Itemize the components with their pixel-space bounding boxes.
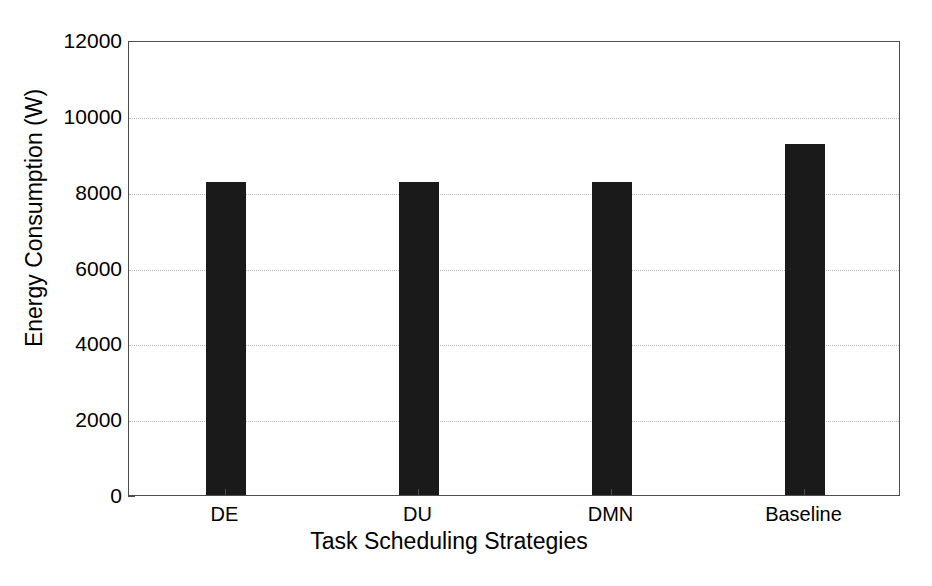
y-axis-tick-label-text: 0 (4, 485, 122, 506)
bar (399, 182, 439, 495)
x-axis-tick-mark (611, 489, 612, 496)
gridline (129, 118, 899, 119)
y-axis-tick-label: 8000 (0, 182, 122, 203)
x-axis-title: Task Scheduling Strategies (0, 528, 932, 554)
y-axis-title: Energy Consumption (W) (21, 0, 47, 448)
y-axis-tick-label: 10000 (0, 106, 122, 127)
bar (592, 182, 632, 495)
bar (785, 144, 825, 495)
x-axis-tick-label: DMN (588, 503, 634, 526)
y-axis-tick-label: 2000 (0, 409, 122, 430)
x-axis-tick-mark (804, 489, 805, 496)
y-axis-tick-label: 0 (0, 485, 122, 506)
x-axis-tick-label: DU (403, 503, 432, 526)
y-axis-tick-mark (128, 496, 135, 497)
x-axis-tick-mark (225, 489, 226, 496)
x-axis-tick-label: Baseline (765, 503, 842, 526)
x-axis-tick-label: DE (211, 503, 239, 526)
y-axis-tick-label: 4000 (0, 333, 122, 354)
x-axis-title-text: Task Scheduling Strategies (310, 528, 587, 554)
bar-chart-figure: 020004000600080001000012000 Energy Consu… (0, 0, 932, 586)
y-axis-tick-label: 12000 (0, 30, 122, 51)
y-axis-tick-label: 6000 (0, 258, 122, 279)
plot-area (128, 41, 900, 496)
bar (206, 182, 246, 495)
x-axis-tick-mark (418, 489, 419, 496)
